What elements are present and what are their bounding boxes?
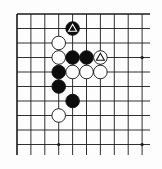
board-background	[0, 0, 162, 169]
black-stone-circle	[80, 51, 94, 65]
black-stone[interactable]	[66, 51, 80, 65]
white-stone-circle	[66, 65, 80, 79]
white-stone[interactable]	[52, 109, 66, 123]
black-stone[interactable]	[66, 22, 80, 36]
white-stone-circle	[52, 36, 66, 50]
black-stone[interactable]	[52, 80, 66, 94]
black-stone[interactable]	[66, 94, 80, 108]
star-point	[141, 143, 144, 146]
white-stone[interactable]	[94, 65, 108, 79]
white-stone-circle	[80, 65, 94, 79]
go-board	[0, 0, 162, 169]
star-point	[141, 56, 144, 59]
white-stone[interactable]	[52, 36, 66, 50]
black-stone-circle	[66, 51, 80, 65]
black-stone-circle	[52, 65, 66, 79]
white-stone-circle	[52, 109, 66, 123]
white-stone[interactable]	[66, 65, 80, 79]
white-stone-circle	[94, 65, 108, 79]
star-point	[57, 143, 60, 146]
black-stone[interactable]	[52, 65, 66, 79]
white-stone[interactable]	[80, 65, 94, 79]
white-stone[interactable]	[94, 51, 108, 65]
white-stone[interactable]	[52, 51, 66, 65]
black-stone-circle	[66, 94, 80, 108]
white-stone-circle	[52, 51, 66, 65]
black-stone[interactable]	[80, 51, 94, 65]
black-stone-circle	[52, 80, 66, 94]
